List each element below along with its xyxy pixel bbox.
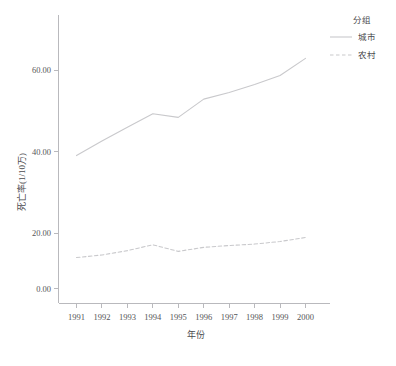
line-chart: 0.00 20.00 40.00 60.00 死亡率(1/10万) 199119… <box>0 0 396 366</box>
y-axis-title: 死亡率(1/10万) <box>16 153 27 211</box>
legend: 分组 城市 农村 <box>330 15 376 60</box>
y-axis-tick-labels: 0.00 20.00 40.00 60.00 <box>32 65 51 294</box>
x-tick-label: 1992 <box>93 312 110 322</box>
series-line-urban <box>77 58 306 155</box>
x-tick-label: 1997 <box>221 312 238 322</box>
series-lines <box>77 58 306 257</box>
x-axis-title: 年份 <box>187 329 205 340</box>
legend-title: 分组 <box>353 15 371 25</box>
x-tick-label: 1998 <box>246 312 263 322</box>
chart-container: 0.00 20.00 40.00 60.00 死亡率(1/10万) 199119… <box>0 0 396 366</box>
y-tick-label: 60.00 <box>32 65 51 75</box>
x-tick-label: 1996 <box>195 312 212 322</box>
legend-label-urban: 城市 <box>358 32 376 42</box>
x-axis-tick-labels: 1991199219931994199519961997199819992000 <box>68 312 314 322</box>
series-line-rural <box>77 238 306 258</box>
x-axis-ticks <box>77 304 306 309</box>
legend-label-rural: 农村 <box>358 50 376 60</box>
y-axis-ticks <box>54 70 59 289</box>
x-tick-label: 1993 <box>119 312 136 322</box>
y-tick-label: 0.00 <box>36 284 51 294</box>
x-tick-label: 1991 <box>68 312 85 322</box>
x-tick-label: 1994 <box>144 312 162 322</box>
y-tick-label: 20.00 <box>32 228 51 238</box>
y-tick-label: 40.00 <box>32 147 51 157</box>
x-tick-label: 1995 <box>170 312 187 322</box>
x-tick-label: 1999 <box>272 312 289 322</box>
x-tick-label: 2000 <box>297 312 314 322</box>
